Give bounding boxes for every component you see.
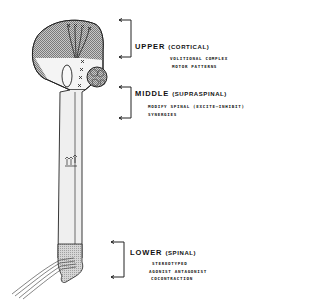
level-upper-title: UPPER (CORTICAL) [135,42,209,51]
level-upper-desc-line: VOLITIONAL COMPLEX [170,55,228,63]
level-middle-name: MIDDLE [135,89,169,98]
level-lower-name: LOWER [130,248,162,257]
bracket-upper [119,19,131,59]
level-upper-name: UPPER [135,42,165,51]
level-lower-desc-line: STEREOTYPED [149,260,207,268]
level-middle-desc-line: SYNERGIES [148,111,245,119]
bracket-lower [111,241,124,279]
level-middle-qualifier: (SUPRASPINAL) [172,91,227,97]
level-lower-desc-line: AGONIST ANTAGONIST [149,268,207,276]
level-upper-desc-line: MOTOR PATTERNS [170,63,228,71]
cerebellum [87,67,107,87]
bracket-middle [119,86,131,120]
level-middle-title: MIDDLE (SUPRASPINAL) [135,89,227,98]
level-lower-desc-line: COCONTRACTION [149,275,207,283]
level-middle-desc-line: MODIFY SPINAL (EXCITE–INHIBIT) [148,103,245,111]
level-upper-description: VOLITIONAL COMPLEX MOTOR PATTERNS [170,55,228,70]
level-lower-title: LOWER (SPINAL) [130,248,196,257]
level-middle-description: MODIFY SPINAL (EXCITE–INHIBIT) SYNERGIES [148,103,245,118]
ventricle [62,65,72,87]
spinal-cord [58,90,85,283]
level-lower-description: STEREOTYPED AGONIST ANTAGONIST COCONTRAC… [149,260,207,283]
level-lower-qualifier: (SPINAL) [165,250,196,256]
level-upper-qualifier: (CORTICAL) [168,44,209,50]
